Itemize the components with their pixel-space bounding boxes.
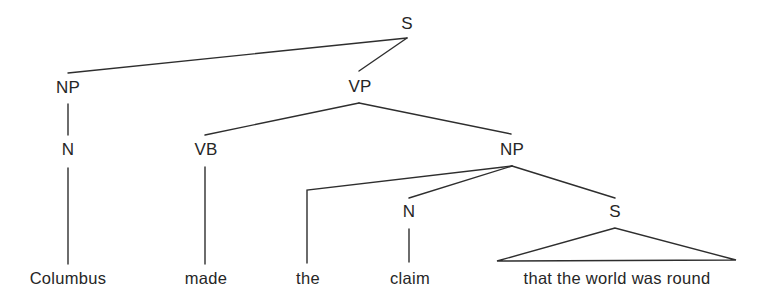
- word-made: made: [185, 268, 227, 288]
- edge-np-to-n-object: [409, 166, 512, 198]
- node-np-subject: NP: [56, 78, 80, 98]
- node-vp: VP: [348, 77, 371, 97]
- word-the: the: [296, 268, 320, 288]
- triangle-s-embedded: [497, 228, 736, 261]
- node-s-embedded: S: [609, 202, 621, 222]
- edge-vp-to-np-object: [359, 103, 511, 134]
- word-claim: claim: [390, 268, 430, 288]
- edge-np-to-s-embedded: [512, 166, 615, 198]
- node-n-object: N: [403, 202, 415, 222]
- edge-s-to-np-subject: [68, 38, 407, 73]
- edge-s-to-vp: [359, 38, 407, 71]
- word-columbus: Columbus: [30, 268, 107, 288]
- node-np-object: NP: [500, 140, 524, 160]
- edge-vp-to-vb: [205, 103, 359, 135]
- node-n-subject: N: [62, 140, 74, 160]
- tree-edges: [0, 0, 766, 307]
- node-vb: VB: [194, 140, 217, 160]
- word-clause: that the world was round: [524, 268, 711, 288]
- node-s-root: S: [401, 14, 413, 34]
